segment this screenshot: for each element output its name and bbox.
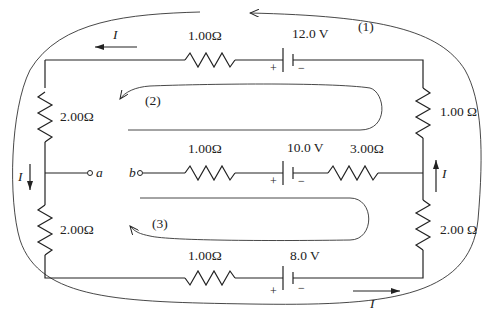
- middle-resistor-2-label: 3.00Ω: [350, 141, 384, 156]
- middle-resistor-2: [328, 166, 378, 180]
- loop-1-path: [13, 12, 482, 304]
- loop-3-label: (3): [152, 216, 168, 231]
- top-wire-right: [293, 60, 423, 88]
- terminal-a[interactable]: [88, 171, 93, 176]
- left-upper-resistor: [38, 92, 52, 142]
- bottom-wire-left: [45, 255, 185, 278]
- middle-resistor-1: [185, 166, 235, 180]
- left-upper-resistor-label: 2.00Ω: [60, 109, 94, 124]
- bottom-battery-minus: −: [298, 281, 305, 295]
- right-lower-resistor: [416, 200, 430, 250]
- right-lower-resistor-label: 2.00 Ω: [440, 222, 477, 237]
- right-upper-resistor: [416, 88, 430, 138]
- top-current-label: I: [112, 27, 119, 42]
- terminal-b-label: b: [129, 165, 136, 180]
- top-resistor-label: 1.00Ω: [188, 28, 222, 43]
- middle-battery-label: 10.0 V: [287, 140, 324, 155]
- top-battery-plus: +: [270, 61, 277, 75]
- top-resistor: [185, 53, 235, 67]
- bottom-current-label: I: [369, 296, 376, 311]
- loop-1-label: (1): [358, 19, 374, 34]
- bottom-resistor: [185, 271, 235, 285]
- right-upper-resistor-label: 1.00 Ω: [440, 104, 477, 119]
- bottom-resistor-label: 1.00Ω: [188, 248, 222, 263]
- middle-resistor-1-label: 1.00Ω: [188, 141, 222, 156]
- top-battery-label: 12.0 V: [292, 26, 329, 41]
- left-current-label: I: [17, 169, 24, 184]
- left-lower-resistor-label: 2.00Ω: [60, 222, 94, 237]
- left-lower-resistor: [38, 205, 52, 255]
- terminal-b[interactable]: [138, 171, 143, 176]
- top-battery-minus: −: [298, 61, 305, 75]
- bottom-battery-label: 8.0 V: [290, 248, 320, 263]
- loop-2-label: (2): [145, 93, 161, 108]
- right-current-label: I: [441, 166, 448, 181]
- terminal-a-label: a: [96, 165, 103, 180]
- middle-battery-plus: +: [270, 174, 277, 188]
- circuit-diagram: I 1.00Ω 12.0 V + − (1) (2) 2.00Ω 1.00 Ω …: [0, 0, 496, 320]
- middle-battery-minus: −: [298, 174, 305, 188]
- bottom-battery-plus: +: [270, 284, 277, 298]
